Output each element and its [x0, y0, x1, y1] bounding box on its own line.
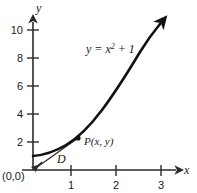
equation-label: y = x2 + 1 [85, 42, 135, 56]
x-tick-label-2: 2 [113, 179, 119, 191]
x-axis-label: x [183, 163, 190, 177]
y-axis-label: y [35, 1, 42, 15]
x-tick-label-1: 1 [68, 179, 74, 191]
origin-label: (0,0) [2, 170, 25, 182]
segment-d-label: D [56, 152, 66, 166]
y-tick-label-2: 2 [17, 136, 23, 148]
y-tick-label-8: 8 [17, 52, 23, 64]
point-p-dot [75, 135, 80, 140]
equation-base: y = x [85, 42, 111, 56]
graph-figure: 2 4 6 8 10 1 2 3 y x (0,0) P(x, y) D y =… [0, 0, 197, 193]
y-tick-label-6: 6 [17, 80, 23, 92]
graph-canvas: 2 4 6 8 10 1 2 3 y x (0,0) P(x, y) D y =… [0, 0, 197, 193]
equation-tail: + 1 [115, 42, 135, 56]
y-tick-label-4: 4 [17, 108, 23, 120]
point-p-label: P(x, y) [83, 135, 114, 148]
x-tick-label-3: 3 [158, 179, 164, 191]
point-p-coords: (x, y) [91, 135, 114, 148]
y-tick-label-10: 10 [11, 24, 23, 36]
